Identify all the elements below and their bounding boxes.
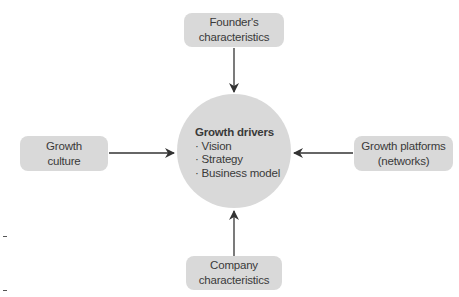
hub-content: Growth drivers · Vision · Strategy · Bus…: [195, 126, 280, 180]
hub-item-strategy: · Strategy: [195, 153, 280, 167]
hub-title: Growth drivers: [195, 126, 280, 140]
node-label-line1: Founder's: [210, 15, 259, 30]
margin-tick: [3, 290, 7, 291]
node-label-line1: Growth: [46, 139, 82, 154]
hub-item-business-model: · Business model: [195, 167, 280, 181]
node-label-line2: characteristics: [199, 30, 270, 45]
node-growth-culture: Growth culture: [20, 136, 108, 171]
node-label-line2: culture: [47, 154, 80, 169]
hub-item-vision: · Vision: [195, 140, 280, 154]
node-company-characteristics: Company characteristics: [186, 256, 282, 290]
node-label-line2: characteristics: [199, 273, 270, 288]
node-founders-characteristics: Founder's characteristics: [184, 13, 284, 47]
node-growth-platforms: Growth platforms (networks): [354, 136, 453, 171]
margin-tick: [3, 236, 7, 237]
node-label-line1: Company: [210, 258, 258, 273]
node-label-line1: Growth platforms: [361, 139, 445, 154]
node-label-line2: (networks): [378, 154, 430, 169]
